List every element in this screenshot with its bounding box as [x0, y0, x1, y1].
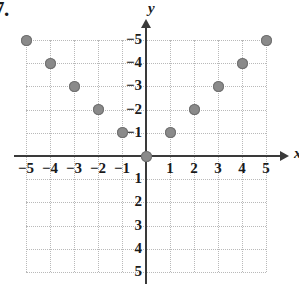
x-tick-label: 2 — [181, 161, 207, 176]
y-axis-label: y — [148, 0, 155, 17]
coordinate-plane: xy−5−4−3−2−11234554321−1−2−3−4−5 — [0, 0, 299, 295]
y-tick-label: −4 — [122, 55, 142, 70]
x-tick-label: −4 — [37, 161, 63, 176]
y-tick-label: 3 — [122, 218, 142, 233]
x-tick-label: −5 — [13, 161, 39, 176]
y-tick-label: 5 — [122, 264, 142, 279]
data-point — [93, 104, 104, 115]
x-axis-label: x — [294, 145, 299, 162]
data-point — [45, 58, 56, 69]
data-point — [261, 35, 272, 46]
x-tick-label: −2 — [85, 161, 111, 176]
data-point — [189, 104, 200, 115]
graph-figure: 7. xy−5−4−3−2−11234554321−1−2−3−4−5 — [0, 0, 299, 295]
x-tick-label: 1 — [157, 161, 183, 176]
y-tick-label: 1 — [122, 171, 142, 186]
y-tick-label: 4 — [122, 241, 142, 256]
y-tick-label: −3 — [122, 78, 142, 93]
x-tick-label: 3 — [205, 161, 231, 176]
x-tick-label: −3 — [61, 161, 87, 176]
y-axis-arrow-icon — [141, 19, 151, 28]
data-point — [237, 58, 248, 69]
y-tick-label: 2 — [122, 194, 142, 209]
x-tick-label: 4 — [229, 161, 255, 176]
data-point — [117, 127, 128, 138]
y-tick-label: −2 — [122, 102, 142, 117]
data-point — [165, 127, 176, 138]
data-point — [21, 35, 32, 46]
data-point — [141, 151, 152, 162]
y-tick-label: −5 — [122, 32, 142, 47]
x-axis-arrow-icon — [280, 151, 289, 161]
x-tick-label: 5 — [253, 161, 279, 176]
data-point — [213, 81, 224, 92]
data-point — [69, 81, 80, 92]
